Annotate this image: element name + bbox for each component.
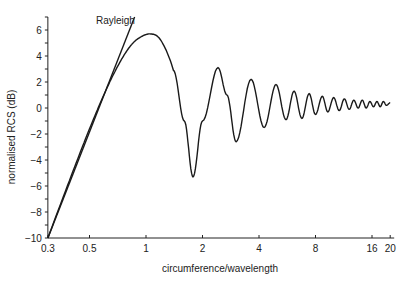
y-axis-label: normalised RCS (dB) [6, 90, 17, 184]
x-tick-label: 8 [313, 243, 319, 254]
x-tick-label: 0.3 [41, 243, 55, 254]
x-tick-label: 16 [366, 243, 378, 254]
y-tick-label: −6 [30, 181, 42, 192]
y-tick-label: 2 [36, 77, 42, 88]
x-tick-label: 2 [200, 243, 206, 254]
x-tick-label: 1 [143, 243, 149, 254]
x-tick-label: 0.5 [83, 243, 97, 254]
x-tick-label: 4 [256, 243, 262, 254]
y-tick-label: 6 [36, 25, 42, 36]
y-tick-label: −8 [30, 207, 42, 218]
y-tick-label: 0 [36, 103, 42, 114]
y-tick-label: 4 [36, 51, 42, 62]
y-axis: 6420−2−4−6−8−10 [25, 17, 48, 244]
x-axis: 0.30.512481620 [41, 235, 396, 254]
y-tick-label: −4 [30, 155, 42, 166]
rayleigh-annotation: Rayleigh [96, 15, 135, 26]
rcs-chart: 6420−2−4−6−8−10 0.30.512481620 Rayleigh … [0, 0, 410, 285]
y-tick-label: −2 [30, 129, 42, 140]
y-tick-label: −10 [25, 233, 42, 244]
rcs-curve [48, 34, 390, 238]
x-axis-label: circumference/wavelength [162, 263, 278, 274]
x-tick-label: 20 [385, 243, 397, 254]
